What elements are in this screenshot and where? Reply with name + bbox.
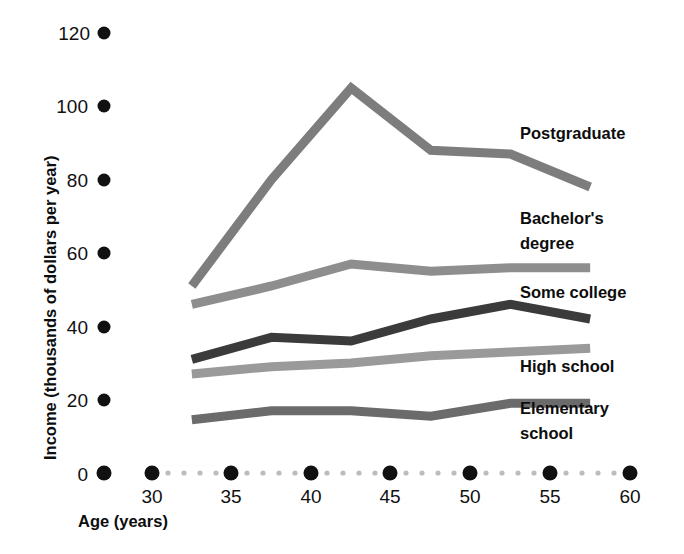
y-tick-label-20: 20 bbox=[67, 390, 88, 411]
y-tick-label-120: 120 bbox=[58, 23, 90, 44]
income-by-education-line-chart: Income (thousands of dollars per year) 1… bbox=[0, 0, 684, 554]
y-tick-dot-40 bbox=[98, 321, 111, 334]
x-tick-dot-30 bbox=[145, 466, 160, 481]
x-tick-label-30: 30 bbox=[141, 486, 162, 507]
x-tick-label-45: 45 bbox=[379, 486, 400, 507]
series-label-elementary-line1: Elementary bbox=[520, 399, 610, 417]
x-tick-dot-50 bbox=[463, 466, 478, 481]
x-tick-label-40: 40 bbox=[300, 486, 321, 507]
x-tick-label-60: 60 bbox=[619, 486, 640, 507]
y-tick-label-40: 40 bbox=[67, 317, 88, 338]
chart-canvas: Income (thousands of dollars per year) 1… bbox=[0, 0, 684, 554]
x-tick-dot-55 bbox=[543, 466, 558, 481]
x-tick-dot-40 bbox=[304, 466, 319, 481]
y-tick-label-0: 0 bbox=[77, 464, 88, 485]
y-tick-dot-100 bbox=[98, 100, 111, 113]
y-axis-title: Income (thousands of dollars per year) bbox=[41, 156, 59, 460]
x-tick-label-50: 50 bbox=[459, 486, 480, 507]
y-tick-label-100: 100 bbox=[56, 96, 88, 117]
y-tick-label-80: 80 bbox=[67, 170, 88, 191]
x-tick-dot-45 bbox=[383, 466, 398, 481]
y-tick-dot-120 bbox=[98, 27, 111, 40]
x-tick-labels: 30 35 40 45 50 55 60 bbox=[141, 486, 640, 507]
x-tick-dot-60 bbox=[623, 466, 638, 481]
series-label-bachelors-line2: degree bbox=[520, 234, 574, 252]
y-tick-labels: 120 100 80 60 40 20 0 bbox=[56, 23, 90, 485]
series-label-some-college: Some college bbox=[520, 283, 626, 301]
series-line-postgraduate bbox=[192, 88, 590, 286]
y-tick-dots bbox=[97, 27, 112, 481]
y-tick-dot-60 bbox=[98, 247, 111, 260]
x-tick-label-55: 55 bbox=[539, 486, 560, 507]
series-label-bachelors-line1: Bachelor's bbox=[520, 209, 604, 227]
y-tick-label-60: 60 bbox=[67, 243, 88, 264]
x-axis-title: Age (years) bbox=[78, 512, 168, 530]
x-tick-label-35: 35 bbox=[220, 486, 241, 507]
y-tick-dot-20 bbox=[98, 394, 111, 407]
series-label-elementary-line2: school bbox=[520, 424, 573, 442]
series-label-high-school: High school bbox=[520, 357, 614, 375]
y-tick-dot-0 bbox=[97, 466, 112, 481]
series-label-postgraduate: Postgraduate bbox=[520, 124, 625, 142]
y-tick-dot-80 bbox=[98, 174, 111, 187]
x-tick-dot-35 bbox=[224, 466, 239, 481]
